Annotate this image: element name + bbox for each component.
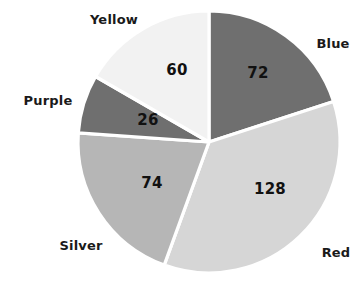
slice-label-purple: Purple bbox=[24, 93, 73, 108]
slice-label-yellow: Yellow bbox=[90, 12, 138, 27]
slice-value-silver: 74 bbox=[141, 174, 162, 192]
pie-chart-canvas bbox=[0, 0, 364, 287]
slice-value-purple: 26 bbox=[137, 111, 158, 129]
pie-chart: 72Blue128Red74Silver26Purple60Yellow bbox=[0, 0, 364, 287]
slice-value-yellow: 60 bbox=[166, 61, 187, 79]
pie-slice-group bbox=[78, 11, 340, 273]
slice-value-blue: 72 bbox=[247, 64, 268, 82]
slice-label-red: Red bbox=[322, 245, 351, 260]
slice-label-blue: Blue bbox=[316, 36, 349, 51]
slice-value-red: 128 bbox=[254, 180, 286, 198]
slice-label-silver: Silver bbox=[59, 238, 102, 253]
